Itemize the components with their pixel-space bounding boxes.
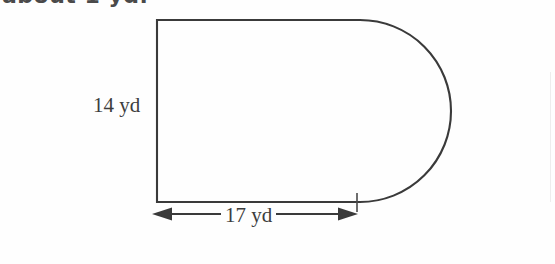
scan-artifact-line <box>550 72 551 202</box>
width-arrowhead-left <box>152 208 172 221</box>
width-dimension-label: 17 yd <box>221 203 276 227</box>
height-dimension-label: 14 yd <box>93 93 140 117</box>
width-arrowhead-right <box>338 208 358 221</box>
shape-outline <box>157 20 451 202</box>
figure-page: about 1 yd. 14 yd 17 yd <box>0 0 555 264</box>
geometry-figure <box>0 0 555 264</box>
